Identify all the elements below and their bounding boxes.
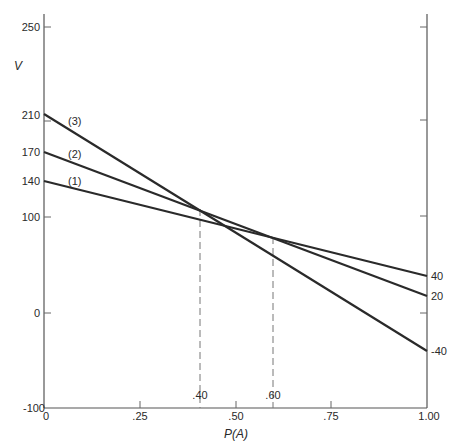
x-tick-50: .50 <box>228 410 243 422</box>
right-label-neg40: -40 <box>431 345 447 357</box>
x-tick-100: 1.00 <box>418 410 439 422</box>
y-tick-170: 170 <box>22 146 40 158</box>
series-label-1: (1) <box>68 175 81 187</box>
series-label-3: (3) <box>68 115 81 127</box>
right-label-40: 40 <box>431 270 443 282</box>
x-tick-0: 0 <box>43 410 49 422</box>
series-line-1 <box>44 181 427 276</box>
y-tick-140: 140 <box>22 175 40 187</box>
series-line-2 <box>44 152 427 296</box>
dashed-label-60: .60 <box>265 389 280 401</box>
right-label-20: 20 <box>431 290 443 302</box>
x-tick-25: .25 <box>132 410 147 422</box>
y-tick-250: 250 <box>22 21 40 33</box>
y-tick-100: 100 <box>22 211 40 223</box>
x-tick-75: .75 <box>323 410 338 422</box>
dashed-label-40: .40 <box>192 389 207 401</box>
y-tick-neg100: -100 <box>23 402 45 414</box>
chart: 250 210 170 140 100 0 -100 V 40 20 -40 (… <box>0 0 456 448</box>
y-tick-0: 0 <box>34 307 40 319</box>
series-label-2: (2) <box>68 148 81 160</box>
x-axis-title: P(A) <box>224 427 248 441</box>
y-tick-210: 210 <box>22 109 40 121</box>
right-ticks <box>420 27 427 313</box>
y-axis-title: V <box>14 59 23 73</box>
series-line-3 <box>44 114 427 351</box>
left-ticks <box>44 27 51 313</box>
x-ticks <box>140 401 331 408</box>
